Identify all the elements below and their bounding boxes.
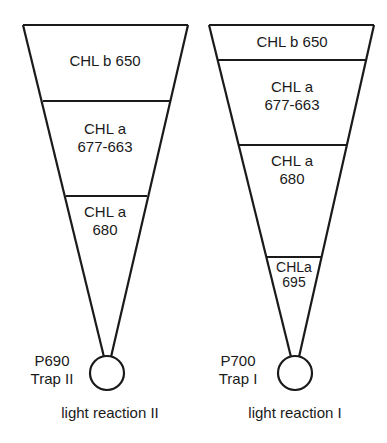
left-layer-2-line1: CHL a bbox=[55, 120, 155, 138]
right-layer-1-line1: CHL b 650 bbox=[242, 33, 342, 51]
right-funnel-right-edge bbox=[299, 25, 374, 357]
left-caption: light reaction II bbox=[40, 404, 180, 422]
right-caption-text: light reaction I bbox=[230, 404, 360, 422]
right-layer-3-label: CHL a 680 bbox=[242, 152, 342, 188]
left-layer-3-line2: 680 bbox=[55, 221, 155, 239]
right-layer-4-label: CHLa 695 bbox=[264, 260, 324, 290]
right-trap-line1: P700 bbox=[204, 352, 272, 370]
right-layer-4-line1: CHLa bbox=[264, 260, 324, 275]
right-funnel-left-edge bbox=[209, 25, 291, 357]
left-layer-3-line1: CHL a bbox=[55, 203, 155, 221]
right-trap-label: P700 Trap I bbox=[204, 352, 272, 388]
right-trap-circle bbox=[278, 356, 312, 390]
right-trap-line2: Trap I bbox=[204, 370, 272, 388]
left-funnel-right-edge bbox=[111, 25, 188, 357]
left-layer-1-line1: CHL b 650 bbox=[55, 52, 155, 70]
right-layer-3-line1: CHL a bbox=[242, 152, 342, 170]
right-layer-1-label: CHL b 650 bbox=[242, 33, 342, 51]
left-trap-line1: P690 bbox=[14, 352, 90, 370]
right-layer-2-line1: CHL a bbox=[242, 78, 342, 96]
left-trap-label: P690 Trap II bbox=[14, 352, 90, 388]
right-layer-4-line2: 695 bbox=[264, 275, 324, 290]
left-layer-2-label: CHL a 677-663 bbox=[55, 120, 155, 156]
left-caption-text: light reaction II bbox=[40, 404, 180, 422]
left-layer-1-label: CHL b 650 bbox=[55, 52, 155, 70]
right-layer-2-label: CHL a 677-663 bbox=[242, 78, 342, 114]
left-trap-circle bbox=[90, 356, 124, 390]
right-layer-3-line2: 680 bbox=[242, 170, 342, 188]
left-layer-3-label: CHL a 680 bbox=[55, 203, 155, 239]
left-layer-2-line2: 677-663 bbox=[55, 138, 155, 156]
left-funnel-left-edge bbox=[23, 25, 104, 357]
left-trap-line2: Trap II bbox=[14, 370, 90, 388]
right-caption: light reaction I bbox=[230, 404, 360, 422]
right-layer-2-line2: 677-663 bbox=[242, 96, 342, 114]
